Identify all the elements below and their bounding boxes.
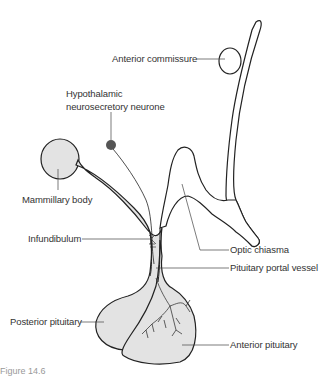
figure-caption: Figure 14.6 <box>0 366 46 376</box>
neurosecretory-neurone-body <box>106 140 116 150</box>
label-infundibulum: Infundibulum <box>28 233 81 244</box>
label-optic-chiasma: Optic chiasma <box>230 244 289 255</box>
label-hypothalamic-line2: neurosecretory neurone <box>66 101 165 112</box>
label-mammillary-body: Mammillary body <box>22 194 92 205</box>
mammillary-body-shape <box>41 139 79 179</box>
label-posterior-pituitary: Posterior pituitary <box>10 316 82 327</box>
optic-chiasma-shape <box>160 147 259 246</box>
neurone-axon <box>113 149 154 264</box>
label-anterior-pituitary: Anterior pituitary <box>230 339 297 350</box>
label-hypothalamic-line1: Hypothalamic <box>66 88 122 99</box>
anterior-commissure-shape <box>219 48 241 74</box>
label-anterior-commissure: Anterior commissure <box>112 53 197 64</box>
label-pituitary-portal-vessel: Pituitary portal vessel <box>230 262 318 273</box>
